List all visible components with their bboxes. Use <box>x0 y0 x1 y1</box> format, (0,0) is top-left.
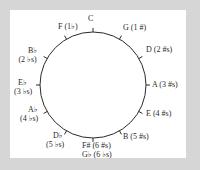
key-name: E♭ <box>14 78 32 87</box>
key-label-a: A (3 #s) <box>152 80 178 89</box>
key-label-f: F (1♭) <box>58 22 78 31</box>
tick-dflat <box>65 131 67 135</box>
key-label-d: D (2 #s) <box>146 45 172 54</box>
key-name: B (5 #s) <box>123 132 149 141</box>
key-label-c: C <box>88 14 93 23</box>
key-name: D (2 #s) <box>146 45 172 54</box>
tick-marks <box>36 28 150 142</box>
tick-e <box>139 112 143 114</box>
tick-b <box>120 131 122 135</box>
key-label-aflat: A♭ (4 ♭s) <box>20 105 38 123</box>
key-label-eflat: E♭ (3 ♭s) <box>14 78 32 96</box>
key-label-g: G (1 #) <box>123 23 146 32</box>
key-signature: (4 ♭s) <box>20 114 38 123</box>
key-label-dflat: D♭ (5 ♭s) <box>46 131 64 149</box>
key-name-sharp: F# (6 #s) <box>82 141 112 150</box>
key-signature: (3 ♭s) <box>14 87 32 96</box>
key-signature: (5 ♭s) <box>46 140 64 149</box>
tick-bflat <box>44 57 48 59</box>
key-signature: (2 ♭s) <box>18 55 37 64</box>
key-name: D♭ <box>46 131 64 140</box>
key-label-bflat: B♭ (2 ♭s) <box>18 46 37 64</box>
tick-g <box>120 36 122 40</box>
key-name: E (4 #s) <box>146 109 171 118</box>
key-label-fsharp-gflat: F# (6 #s) G♭ (6 ♭s) <box>82 141 112 159</box>
key-name-flat: G♭ (6 ♭s) <box>82 150 112 159</box>
key-name: A (3 #s) <box>152 80 178 89</box>
key-label-e: E (4 #s) <box>146 109 171 118</box>
tick-f <box>65 36 67 40</box>
key-name: F (1♭) <box>58 22 78 31</box>
fifths-circle <box>40 32 146 138</box>
tick-aflat <box>44 112 48 114</box>
key-name: G (1 #) <box>123 23 146 32</box>
key-label-b: B (5 #s) <box>123 132 149 141</box>
tick-d <box>139 57 143 59</box>
key-name: B♭ <box>18 46 37 55</box>
key-name: C <box>88 14 93 23</box>
key-name: A♭ <box>20 105 38 114</box>
